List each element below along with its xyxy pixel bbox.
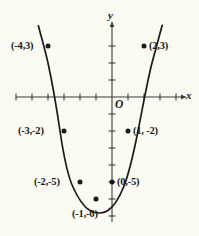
coordinate-plane (0, 0, 199, 236)
point-label-neg1-neg6: (-1,-6) (72, 209, 98, 220)
point-label-neg2-neg5: (-2,-5) (34, 177, 60, 188)
data-point (78, 180, 83, 185)
point-label-0-neg5: (0,-5) (117, 177, 139, 188)
y-axis-label: y (108, 10, 113, 21)
point-label-neg4-3: (-4,3) (11, 41, 33, 52)
data-point (142, 44, 147, 49)
point-label-neg3-neg2: (-3,-2) (18, 126, 44, 137)
data-point (126, 129, 131, 134)
y-axis (110, 22, 115, 222)
data-point (46, 44, 51, 49)
x-axis-label: x (186, 90, 192, 101)
point-label-1-neg2: (1, -2) (133, 126, 158, 137)
graph-figure: x y O (-4,3) (2,3) (-3,-2) (1, -2) (-2,-… (0, 0, 199, 236)
data-point (94, 197, 99, 202)
origin-label: O (115, 99, 123, 111)
data-point (62, 129, 67, 134)
data-point (110, 180, 115, 185)
point-label-2-3: (2,3) (149, 41, 168, 52)
